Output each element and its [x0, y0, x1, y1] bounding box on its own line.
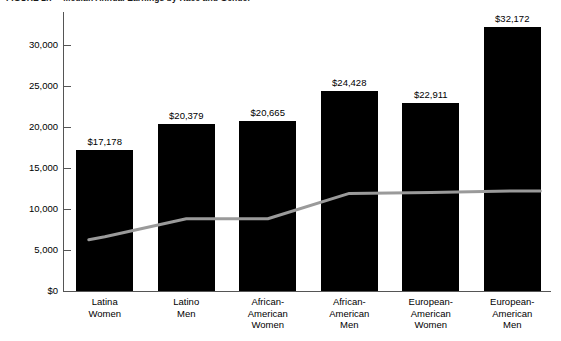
y-axis-tick [63, 45, 71, 46]
x-axis-category-label: African-AmericanWomen [227, 296, 309, 331]
x-axis-category-label: LatinaWomen [64, 296, 146, 319]
category-label-line: Men [146, 308, 228, 320]
category-label-line: Latina [64, 296, 146, 308]
x-axis-category-label: African-AmericanMen [309, 296, 391, 331]
bar[interactable] [484, 27, 541, 291]
category-label-line: European- [390, 296, 472, 308]
bar-group: $20,379 [158, 0, 215, 291]
bar[interactable] [76, 150, 133, 291]
bar-group: $20,665 [239, 0, 296, 291]
bar-value-label: $32,172 [484, 13, 541, 24]
x-axis-line [63, 291, 551, 292]
category-label-line: Men [472, 319, 554, 331]
bar-value-label: $22,911 [402, 89, 459, 100]
category-label-line: African- [309, 296, 391, 308]
bar-group: $32,172 [484, 0, 541, 291]
x-axis-category-labels: LatinaWomenLatinoMenAfrican-AmericanWome… [0, 296, 561, 341]
bar-value-label: $24,428 [321, 77, 378, 88]
bar-value-label: $20,665 [239, 107, 296, 118]
category-label-line: European- [472, 296, 554, 308]
y-axis-tick [63, 86, 71, 87]
x-axis-category-label: LatinoMen [146, 296, 228, 319]
bar-value-label: $17,178 [76, 136, 133, 147]
bar[interactable] [158, 124, 215, 291]
category-label-line: Women [390, 319, 472, 331]
y-axis-tick [63, 127, 71, 128]
category-label-line: American [472, 308, 554, 320]
bar-value-label: $20,379 [158, 110, 215, 121]
bar[interactable] [321, 91, 378, 291]
y-axis-tick [63, 168, 71, 169]
x-axis-category-label: European-AmericanMen [472, 296, 554, 331]
category-label-line: Latino [146, 296, 228, 308]
category-label-line: Women [227, 319, 309, 331]
bar-group: $24,428 [321, 0, 378, 291]
bar[interactable] [402, 103, 459, 291]
bar-group: $17,178 [76, 0, 133, 291]
figure-container: FIGURE 2.7Median Annual Earnings by Race… [0, 0, 561, 341]
y-axis-tick [63, 209, 71, 210]
category-label-line: Women [64, 308, 146, 320]
category-label-line: American [227, 308, 309, 320]
bars-layer: $17,178$20,379$20,665$24,428$22,911$32,1… [0, 0, 561, 291]
y-axis-tick [63, 250, 71, 251]
category-label-line: Men [309, 319, 391, 331]
category-label-line: African- [227, 296, 309, 308]
x-axis-category-label: European-AmericanWomen [390, 296, 472, 331]
bar[interactable] [239, 121, 296, 291]
category-label-line: American [309, 308, 391, 320]
category-label-line: American [390, 308, 472, 320]
bar-group: $22,911 [402, 0, 459, 291]
